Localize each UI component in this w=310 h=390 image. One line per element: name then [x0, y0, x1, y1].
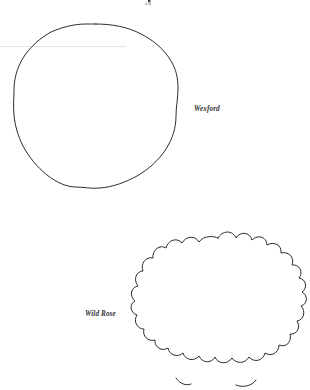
figure-outline-wild-rose-bottom-crop — [176, 378, 191, 385]
figure-outline-wild-rose-bottom-crop-2 — [236, 380, 256, 386]
cropped-text-fragment-top — [146, 0, 151, 5]
figure-label-wild-rose: Wild Rose — [85, 311, 116, 318]
figure-outline-wild-rose — [131, 232, 306, 363]
figure-outline-wexford — [14, 24, 178, 188]
scanned-page: Wexford Wild Rose — [0, 0, 310, 390]
figure-label-wexford: Wexford — [194, 106, 220, 113]
pattern-drawing-canvas — [0, 0, 310, 390]
